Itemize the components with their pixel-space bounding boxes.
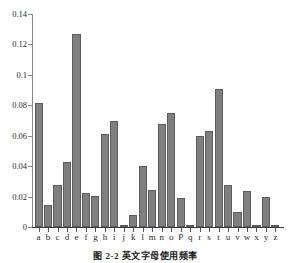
- bar-v: [233, 212, 241, 227]
- bar-x: [252, 225, 260, 227]
- y-axis-tick: [28, 44, 32, 45]
- bar-z: [271, 225, 279, 227]
- x-axis-label-y: y: [264, 233, 269, 242]
- bar-f: [82, 193, 90, 227]
- bar-a: [35, 103, 43, 227]
- y-axis-line: [32, 14, 33, 228]
- y-axis-tick-label: 0.1: [16, 71, 27, 80]
- chart-plot-area: 00.020.040.060.080.10.120.14: [32, 14, 284, 228]
- y-axis-tick: [28, 197, 32, 198]
- x-axis-label-v: v: [235, 233, 240, 242]
- y-axis-tick-label: 0.14: [12, 10, 27, 19]
- figure-caption: 图 2-2 英文字母使用频率: [0, 249, 291, 262]
- x-axis-label-d: d: [65, 233, 70, 242]
- x-axis-label-o: o: [169, 233, 174, 242]
- x-axis-label-f: f: [84, 233, 87, 242]
- bar-o: [167, 113, 175, 227]
- x-axis-label-P: P: [178, 233, 183, 242]
- y-axis-tick-label: 0.12: [12, 40, 27, 49]
- x-axis-label-s: s: [207, 233, 211, 242]
- x-axis-label-x: x: [254, 233, 259, 242]
- y-axis-tick: [28, 14, 32, 15]
- x-axis-label-g: g: [93, 233, 98, 242]
- bar-e: [72, 34, 80, 227]
- bar-b: [44, 205, 52, 227]
- bar-h: [101, 134, 109, 227]
- bar-P: [177, 198, 185, 227]
- bar-n: [158, 124, 166, 227]
- bar-c: [53, 185, 61, 227]
- x-axis-label-m: m: [149, 233, 156, 242]
- y-axis-tick-label: 0.02: [12, 192, 27, 201]
- x-axis-label-e: e: [74, 233, 78, 242]
- y-axis-tick-label: 0.08: [12, 101, 27, 110]
- bar-l: [139, 166, 147, 227]
- x-axis-label-k: k: [131, 233, 136, 242]
- x-axis-label-h: h: [103, 233, 108, 242]
- x-axis-label-u: u: [226, 233, 231, 242]
- y-axis-tick: [28, 75, 32, 76]
- x-axis-label-w: w: [244, 233, 251, 242]
- bar-j: [120, 225, 128, 227]
- y-axis-tick-label: 0.06: [12, 131, 27, 140]
- y-axis-tick-label: 0.04: [12, 162, 27, 171]
- bar-d: [63, 162, 71, 227]
- x-axis-label-l: l: [142, 233, 145, 242]
- x-axis-label-i: i: [113, 233, 116, 242]
- bar-r: [196, 136, 204, 227]
- bar-y: [262, 197, 270, 227]
- y-axis-tick: [28, 136, 32, 137]
- x-axis-labels: abcdefghijklmnoPqrstuvwxyz: [32, 233, 284, 246]
- figure-container: 00.020.040.060.080.10.120.14 abcdefghijk…: [0, 0, 291, 263]
- x-axis-label-b: b: [46, 233, 51, 242]
- bar-s: [205, 131, 213, 227]
- x-axis-label-j: j: [123, 233, 126, 242]
- y-axis-tick: [28, 166, 32, 167]
- bar-k: [129, 215, 137, 227]
- x-axis-label-t: t: [217, 233, 220, 242]
- bar-q: [186, 225, 194, 227]
- y-axis-tick: [28, 227, 32, 228]
- x-axis-label-a: a: [37, 233, 41, 242]
- x-axis-label-c: c: [56, 233, 60, 242]
- x-axis-label-r: r: [198, 233, 201, 242]
- bar-g: [91, 196, 99, 227]
- y-axis-tick-label: 0: [23, 223, 27, 232]
- bar-w: [243, 191, 251, 227]
- bar-t: [215, 89, 223, 227]
- x-axis-label-q: q: [188, 233, 193, 242]
- x-axis-label-z: z: [273, 233, 277, 242]
- x-axis-label-n: n: [159, 233, 164, 242]
- y-axis-tick: [28, 105, 32, 106]
- bar-m: [148, 190, 156, 227]
- bar-i: [110, 121, 118, 227]
- bar-u: [224, 185, 232, 227]
